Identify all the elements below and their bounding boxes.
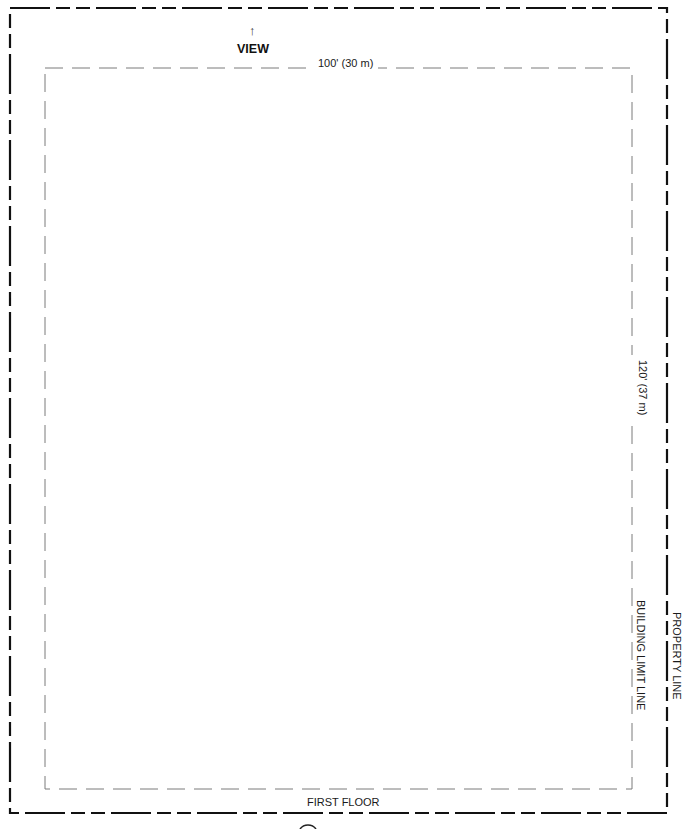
depth-dimension-label: 120' (37 m) bbox=[637, 360, 648, 415]
building-limit-line bbox=[45, 68, 632, 789]
view-arrow-icon: ↑ bbox=[249, 24, 256, 37]
view-label: VIEW bbox=[237, 43, 269, 56]
width-dimension-label: 100' (30 m) bbox=[318, 58, 373, 69]
property-line-label: PROPERTY LINE bbox=[671, 612, 682, 700]
building-limit-line-label: BUILDING LIMIT LINE bbox=[635, 600, 646, 710]
property-line bbox=[10, 8, 667, 813]
site-plan-drawing bbox=[0, 0, 683, 829]
floor-label: FIRST FLOOR bbox=[307, 797, 380, 808]
section-symbol-icon bbox=[300, 825, 316, 829]
